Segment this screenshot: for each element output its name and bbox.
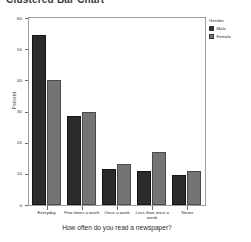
bar-male[interactable] bbox=[32, 35, 46, 205]
bar-female[interactable] bbox=[82, 112, 96, 206]
bars-layer bbox=[29, 18, 205, 205]
bar-chart: Clustered Bar Chart Percent 010203040506… bbox=[0, 0, 251, 242]
bar-male[interactable] bbox=[102, 169, 116, 205]
bar-female[interactable] bbox=[152, 152, 166, 205]
bar-female[interactable] bbox=[187, 171, 201, 205]
y-axis-tick-mark bbox=[25, 80, 28, 81]
bar-group bbox=[32, 18, 62, 205]
bar-group bbox=[172, 18, 202, 205]
bar-male[interactable] bbox=[67, 116, 81, 205]
x-axis-tick-label: Few times a week bbox=[62, 210, 102, 215]
legend-swatch-icon bbox=[209, 26, 214, 31]
y-axis-tick-mark bbox=[25, 112, 28, 113]
legend-title: Gender bbox=[209, 18, 249, 23]
x-axis-title: How often do you read a newspaper? bbox=[28, 224, 206, 231]
legend-swatch-icon bbox=[209, 34, 214, 39]
y-axis-tick-label: 30 bbox=[17, 108, 22, 115]
y-axis-title: Percent bbox=[12, 71, 17, 131]
bar-male[interactable] bbox=[172, 175, 186, 205]
bar-group bbox=[67, 18, 97, 205]
y-axis-tick-label: 40 bbox=[17, 77, 22, 84]
y-axis-tick-label: 0 bbox=[20, 202, 22, 209]
legend-item-label: Male bbox=[217, 26, 226, 31]
x-axis-tick-label: Less than once a week bbox=[132, 210, 172, 221]
bar-group bbox=[137, 18, 167, 205]
y-axis-tick-label: 10 bbox=[17, 170, 22, 177]
legend-item-male[interactable]: Male bbox=[209, 26, 249, 32]
legend-item-female[interactable]: Female bbox=[209, 34, 249, 40]
y-axis-tick-label: 50 bbox=[17, 46, 22, 53]
legend-item-label: Female bbox=[217, 34, 231, 39]
x-axis-tick-label: Once a week bbox=[97, 210, 137, 215]
chart-title: Clustered Bar Chart bbox=[6, 0, 104, 3]
bar-group bbox=[102, 18, 132, 205]
bar-female[interactable] bbox=[117, 164, 131, 205]
y-axis-tick-mark bbox=[25, 143, 28, 144]
y-axis-tick-label: 20 bbox=[17, 139, 22, 146]
y-axis-tick-mark bbox=[25, 49, 28, 50]
y-axis-tick-mark bbox=[25, 174, 28, 175]
y-axis-tick-mark bbox=[25, 205, 28, 206]
bar-female[interactable] bbox=[47, 80, 61, 205]
x-axis-tick-label: Never bbox=[167, 210, 207, 215]
y-axis-tick-label: 60 bbox=[17, 15, 22, 22]
x-axis-tick-label: Everyday bbox=[27, 210, 67, 215]
bar-male[interactable] bbox=[137, 171, 151, 205]
y-axis-tick-mark bbox=[25, 18, 28, 19]
legend: Gender MaleFemale bbox=[209, 18, 249, 42]
